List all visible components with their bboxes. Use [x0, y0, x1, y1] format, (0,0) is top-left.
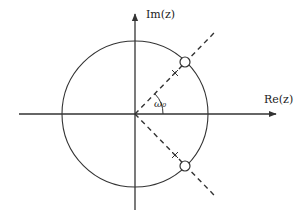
pole-marker-lower [172, 152, 178, 158]
zero-marker-lower [180, 161, 190, 171]
angle-label: ω₀ [154, 98, 166, 109]
x-axis-label: Re(z) [264, 93, 293, 106]
zero-marker-upper [180, 57, 190, 67]
y-axis-label: Im(z) [146, 8, 175, 21]
pole-marker-upper [172, 70, 178, 76]
